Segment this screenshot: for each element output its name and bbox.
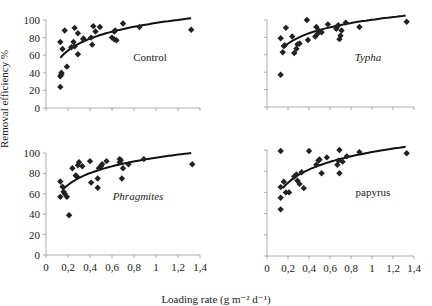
data-point	[59, 46, 65, 52]
data-point	[120, 165, 126, 171]
data-point	[403, 19, 409, 25]
trend-line	[63, 153, 192, 190]
x-axis-label: Loading rate (g m⁻² d⁻¹)	[0, 293, 432, 306]
data-point	[356, 24, 362, 30]
trend-line	[60, 18, 191, 58]
data-point	[189, 161, 195, 167]
data-point	[64, 63, 70, 69]
data-point	[95, 184, 101, 190]
y-tick-label: 20	[29, 229, 41, 241]
x-tick-label: 0,4	[302, 262, 316, 274]
x-tick-label: 0	[43, 261, 49, 273]
x-axis-label-text: Loading rate (g m⁻² d⁻¹)	[161, 293, 270, 305]
data-point	[66, 212, 72, 218]
x-tick-label: 1,2	[386, 262, 400, 274]
x-tick-label: 1	[153, 261, 159, 273]
y-axis-label: Removal efficiency %	[0, 50, 10, 148]
data-point	[338, 27, 344, 33]
data-point	[97, 24, 103, 30]
data-point	[277, 206, 283, 212]
data-point	[306, 148, 312, 154]
data-point	[277, 148, 283, 154]
panel-label: Control	[133, 51, 167, 63]
y-tick-label: 100	[24, 14, 41, 26]
y-tick-label: 0	[35, 102, 41, 114]
data-point	[57, 39, 63, 45]
data-point	[277, 72, 283, 78]
panel-control: 020406080100Control	[24, 14, 201, 114]
data-point	[89, 41, 95, 47]
data-point	[95, 175, 101, 181]
panel-papyrus: 00,20,40,60,811,21,4papyrus	[264, 147, 421, 274]
data-point	[188, 26, 194, 32]
panel-phragmites: 00,20,40,60,811,21,4020406080100Phragmit…	[24, 147, 208, 273]
x-tick-label: 1,4	[193, 261, 207, 273]
data-point	[304, 17, 310, 23]
panel-label: Phragmites	[112, 190, 164, 202]
data-point	[305, 37, 311, 43]
data-point	[120, 20, 126, 26]
data-point	[301, 185, 307, 191]
x-tick-label: 1	[369, 262, 375, 274]
y-tick-label: 60	[29, 188, 41, 200]
x-tick-label: 0,6	[105, 261, 119, 273]
data-point	[277, 184, 283, 190]
y-tick-label: 60	[29, 49, 41, 61]
data-point	[87, 158, 93, 164]
data-point	[71, 25, 77, 31]
data-point	[336, 170, 342, 176]
data-point	[75, 30, 81, 36]
data-point	[119, 175, 125, 181]
y-tick-label: 40	[29, 208, 41, 220]
x-tick-label: 1,2	[171, 261, 185, 273]
data-point	[69, 165, 75, 171]
data-point	[62, 27, 68, 33]
data-point	[280, 49, 286, 55]
data-point	[283, 25, 289, 31]
data-point	[277, 35, 283, 41]
data-point	[318, 170, 324, 176]
x-tick-label: 0,8	[127, 261, 141, 273]
data-point	[277, 195, 283, 201]
y-tick-label: 40	[29, 67, 41, 79]
y-tick-label: 100	[24, 147, 41, 159]
x-tick-label: 0,2	[281, 262, 295, 274]
x-tick-label: 0,8	[344, 262, 358, 274]
data-point	[324, 154, 330, 160]
x-tick-label: 0,2	[61, 261, 75, 273]
x-tick-label: 0	[264, 262, 270, 274]
panel-typha: Typha	[264, 16, 414, 110]
y-axis-label-text: Removal efficiency %	[0, 50, 10, 148]
data-point	[336, 147, 342, 153]
y-tick-label: 0	[35, 249, 41, 261]
x-tick-label: 0,4	[83, 261, 97, 273]
y-tick-label: 80	[29, 167, 41, 179]
trend-line	[283, 147, 406, 188]
data-point	[57, 84, 63, 90]
data-point	[88, 179, 94, 185]
y-tick-label: 80	[29, 32, 41, 44]
data-point	[403, 150, 409, 156]
data-point	[141, 156, 147, 162]
x-tick-label: 1,4	[407, 262, 421, 274]
panel-label: papyrus	[356, 186, 391, 198]
panel-label: Typha	[355, 51, 382, 63]
y-tick-label: 20	[29, 84, 41, 96]
data-point	[75, 51, 81, 57]
x-tick-label: 0,6	[323, 262, 337, 274]
